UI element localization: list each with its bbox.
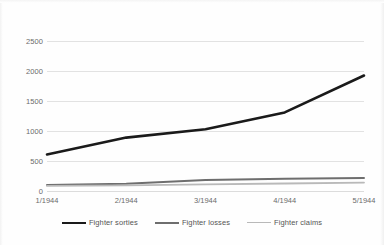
y-tick-label: 1000 <box>3 127 43 136</box>
y-tick-label: 1500 <box>3 97 43 106</box>
legend-label: Fighter claims <box>274 218 322 227</box>
series-lines <box>47 41 364 191</box>
x-tick-label: 5/1944 <box>353 196 376 205</box>
y-tick-label: 500 <box>3 157 43 166</box>
series-line <box>47 76 364 155</box>
gridline <box>47 191 364 192</box>
legend-item[interactable]: Fighter losses <box>155 218 230 227</box>
legend-swatch <box>247 222 271 223</box>
plot-area <box>47 41 364 191</box>
y-tick-label: 2000 <box>3 67 43 76</box>
y-tick-label: 2500 <box>3 37 43 46</box>
legend-label: Fighter sorties <box>89 218 138 227</box>
x-tick-label: 2/1944 <box>115 196 138 205</box>
y-tick-label: 0 <box>3 187 43 196</box>
legend-item[interactable]: Fighter claims <box>247 218 322 227</box>
legend-item[interactable]: Fighter sorties <box>62 218 138 227</box>
chart-legend: Fighter sortiesFighter lossesFighter cla… <box>0 218 384 227</box>
legend-swatch <box>62 222 86 224</box>
legend-label: Fighter losses <box>182 218 230 227</box>
x-tick-label: 1/1944 <box>36 196 59 205</box>
page-edge-top <box>0 0 384 3</box>
x-tick-label: 3/1944 <box>194 196 217 205</box>
legend-swatch <box>155 222 179 224</box>
y-axis: 05001000150020002500 <box>0 41 43 191</box>
page-edge-right <box>380 0 384 245</box>
line-chart: 05001000150020002500 1/19442/19443/19444… <box>0 0 384 245</box>
x-tick-label: 4/1944 <box>273 196 296 205</box>
